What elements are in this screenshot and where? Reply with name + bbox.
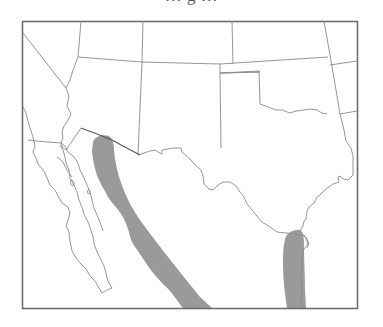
east-range-area bbox=[283, 230, 306, 308]
map-frame bbox=[23, 22, 358, 309]
range-map bbox=[0, 0, 383, 327]
west-range-area bbox=[92, 135, 212, 308]
state-borders bbox=[23, 21, 357, 236]
